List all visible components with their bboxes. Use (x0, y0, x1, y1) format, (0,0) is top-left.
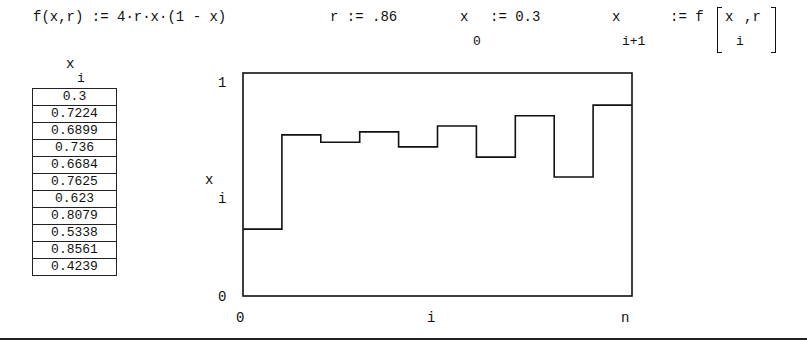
step-plot (0, 0, 807, 347)
plot-frame (243, 73, 632, 296)
step-line (243, 105, 632, 229)
horizontal-rule (0, 338, 807, 340)
